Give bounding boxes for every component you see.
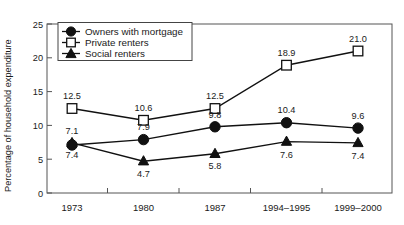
value-label: 7.4	[66, 150, 79, 160]
data-point-marker	[353, 46, 363, 56]
hollow-square-icon	[67, 38, 76, 47]
value-label: 7.9	[137, 122, 150, 132]
x-tick-label: 1994–1995	[263, 202, 311, 213]
line-chart: Percentage of household expenditure 25 2…	[0, 0, 404, 225]
x-axis-labels: 1973 1980 1987 1994–1995 1999–2000	[61, 202, 381, 213]
data-point-marker	[67, 104, 77, 114]
value-label: 12.5	[206, 91, 224, 101]
data-point-marker	[67, 140, 77, 150]
value-label: 21.0	[349, 34, 367, 44]
y-axis-title: Percentage of household expenditure	[3, 39, 13, 192]
legend-item-private-renters: Private renters	[62, 37, 149, 48]
y-axis-ticks: 25 20 15 10 5 0	[33, 20, 52, 199]
value-label: 4.7	[137, 169, 150, 179]
data-point-marker	[281, 118, 291, 128]
x-tick-label: 1987	[204, 202, 225, 213]
y-tick-label: 20	[33, 53, 43, 63]
y-tick-label: 10	[33, 121, 43, 131]
y-tick-label: 15	[33, 87, 43, 97]
chart-container: Percentage of household expenditure 25 2…	[0, 0, 404, 225]
data-point-marker	[138, 134, 148, 144]
value-label: 9.6	[352, 111, 365, 121]
value-label: 7.1	[66, 126, 79, 136]
legend-item-label: Owners with mortgage	[85, 26, 184, 37]
data-point-marker	[281, 136, 291, 145]
series-owners-with-mortgage	[67, 118, 363, 151]
value-label: 5.8	[209, 161, 222, 171]
value-label: 18.9	[278, 48, 296, 58]
x-axis-ticks	[108, 188, 323, 193]
y-tick-label: 0	[38, 189, 43, 199]
filled-circle-icon	[66, 27, 75, 36]
data-point-marker	[282, 60, 292, 70]
legend-item-label: Private renters	[85, 37, 149, 48]
x-tick-label: 1999–2000	[334, 202, 382, 213]
data-point-marker	[353, 123, 363, 133]
value-label: 7.6	[280, 150, 293, 160]
value-label: 9.8	[209, 110, 222, 120]
y-tick-label: 5	[38, 155, 43, 165]
chart-legend: Owners with mortgage Private renters Soc…	[58, 23, 192, 61]
data-point-marker	[210, 122, 220, 132]
y-tick-label: 25	[33, 20, 43, 30]
x-tick-label: 1973	[61, 202, 82, 213]
legend-item-label: Social renters	[85, 48, 145, 59]
x-tick-label: 1980	[133, 202, 154, 213]
value-label: 7.4	[352, 151, 365, 161]
value-label: 10.4	[278, 105, 296, 115]
value-label: 10.6	[135, 103, 153, 113]
data-point-marker	[353, 137, 363, 146]
value-label: 12.5	[63, 91, 81, 101]
